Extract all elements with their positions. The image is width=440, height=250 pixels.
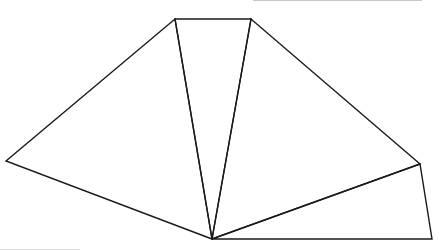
triangle-obc [175, 19, 251, 239]
geometry-diagram [0, 0, 440, 250]
triangle-ode [212, 164, 432, 239]
triangle-ocd [212, 19, 420, 239]
